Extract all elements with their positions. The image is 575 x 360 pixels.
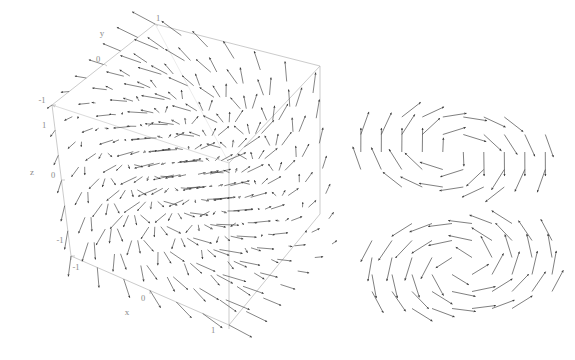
- y-tick-1: 1: [156, 13, 160, 23]
- x-axis-label: x: [125, 307, 130, 317]
- y-tick-neg1: -1: [38, 95, 45, 105]
- figure-canvas: y z x 1 0 -1 1 0 -1 -1 0 1: [0, 0, 575, 360]
- z-tick-0: 0: [51, 170, 55, 180]
- z-tick-1: 1: [42, 120, 46, 130]
- vector-field-figure: y z x 1 0 -1 1 0 -1 -1 0 1: [0, 0, 575, 360]
- x-tick-0: 0: [141, 293, 145, 303]
- z-tick-neg1: -1: [56, 235, 63, 245]
- z-axis-label: z: [30, 167, 34, 177]
- y-axis-label: y: [100, 28, 105, 38]
- plot-background: [0, 0, 575, 360]
- x-tick-1: 1: [211, 325, 215, 335]
- x-tick-neg1: -1: [72, 262, 79, 272]
